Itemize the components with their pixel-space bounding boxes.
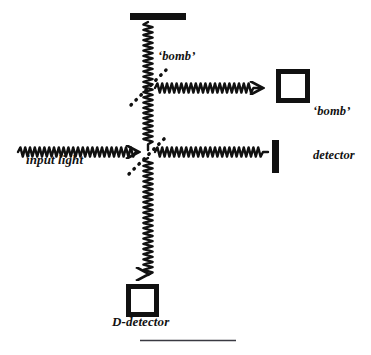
right-mirror: [272, 140, 279, 173]
beam-to-d-detector: [143, 158, 152, 275]
light-beams-group: [18, 22, 268, 275]
label-bomb-detector-line1: ‘bomb’: [313, 104, 355, 119]
bomb-tester-diagram: ‘bomb’ ‘bomb’ detector input light D-det…: [0, 0, 371, 355]
label-bomb-detector: ‘bomb’ detector: [313, 74, 355, 192]
detector-boxes-group: [129, 72, 308, 315]
bomb-detector-box: [279, 72, 308, 101]
label-bomb: ‘bomb’: [158, 49, 195, 64]
label-input-light: input light: [26, 152, 83, 167]
label-d-detector: D-detector: [112, 314, 169, 329]
beam-to-bomb-detector: [155, 83, 262, 92]
d-detector-box: [129, 287, 157, 315]
label-bomb-detector-line2: detector: [313, 148, 355, 163]
beam-to-right-mirror: [155, 147, 268, 156]
top-mirror: [130, 13, 186, 20]
